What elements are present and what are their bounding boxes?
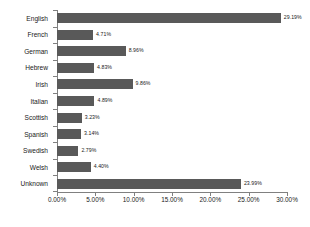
value-tick-label: 25.00% (238, 197, 260, 203)
bar-value-label: 4.89% (97, 98, 112, 103)
bar-row: 29.19% (57, 10, 287, 27)
bar-value-label: 23.99% (244, 181, 262, 186)
category-axis-labels: English French German Hebrew Irish Itali… (0, 10, 53, 192)
category-label: Scottish (0, 109, 53, 126)
bar-value-label: 3.23% (85, 115, 100, 120)
value-tick-label: 0.00% (48, 197, 66, 203)
value-axis-tick-labels: 0.00%5.00%10.00%15.00%20.00%25.00%30.00% (0, 197, 310, 211)
plot-area: 29.19%4.71%8.96%4.83%9.86%4.89%3.23%3.14… (57, 10, 287, 192)
value-tick-label: 5.00% (86, 197, 104, 203)
category-label: English (0, 10, 53, 27)
bar-value-label: 4.40% (94, 165, 109, 170)
bar-row: 8.96% (57, 43, 287, 60)
bar-value-label: 4.71% (96, 32, 111, 37)
bar (57, 63, 94, 73)
bar-rows: 29.19%4.71%8.96%4.83%9.86%4.89%3.23%3.14… (57, 10, 287, 192)
value-tick-label: 30.00% (276, 197, 298, 203)
value-tick-label: 20.00% (199, 197, 221, 203)
bar-row: 3.23% (57, 109, 287, 126)
bar-row: 9.86% (57, 76, 287, 93)
bar-row: 2.79% (57, 142, 287, 159)
bar (57, 129, 81, 139)
category-label: Irish (0, 76, 53, 93)
bar (57, 46, 126, 56)
bar-value-label: 9.86% (136, 82, 151, 87)
value-tick-label: 15.00% (161, 197, 183, 203)
bar (57, 162, 91, 172)
bar (57, 179, 241, 189)
bar-value-label: 2.79% (81, 148, 96, 153)
bar-row: 4.83% (57, 60, 287, 77)
bar-row: 4.71% (57, 27, 287, 44)
category-label: Swedish (0, 142, 53, 159)
bar-row: 23.99% (57, 175, 287, 192)
category-label: German (0, 43, 53, 60)
category-label: Welsh (0, 159, 53, 176)
category-label: Spanish (0, 126, 53, 143)
value-tick-label: 10.00% (123, 197, 145, 203)
bar (57, 113, 82, 123)
bar (57, 30, 93, 40)
category-label: French (0, 27, 53, 44)
bar-value-label: 3.14% (84, 131, 99, 136)
category-label: Hebrew (0, 60, 53, 77)
category-label: Italian (0, 93, 53, 110)
bar-row: 3.14% (57, 126, 287, 143)
bar (57, 13, 281, 23)
bar (57, 146, 78, 156)
bar-value-label: 8.96% (129, 49, 144, 54)
category-label: Unknown (0, 175, 53, 192)
bar-row: 4.89% (57, 93, 287, 110)
bar-value-label: 4.83% (97, 65, 112, 70)
bar-row: 4.40% (57, 159, 287, 176)
bar (57, 79, 133, 89)
bar-value-label: 29.19% (284, 16, 302, 21)
bar (57, 96, 94, 106)
bar-chart: English French German Hebrew Irish Itali… (0, 0, 310, 227)
